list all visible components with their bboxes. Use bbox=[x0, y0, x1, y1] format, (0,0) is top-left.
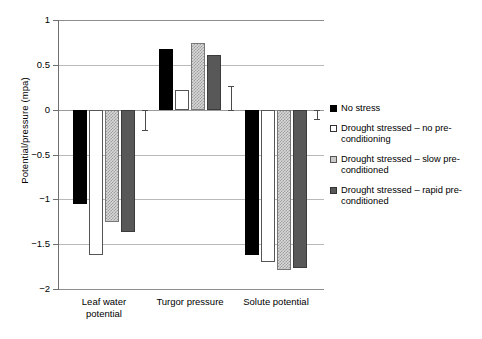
error-bar bbox=[145, 110, 146, 131]
y-axis-tick-label: −1.5 bbox=[31, 239, 50, 249]
bar bbox=[89, 110, 103, 255]
bar bbox=[277, 110, 291, 271]
legend-item-label: Drought stressed – no pre-conditioning bbox=[341, 123, 480, 145]
error-bar-cap bbox=[142, 110, 148, 111]
error-bar-cap bbox=[142, 130, 148, 131]
bar bbox=[105, 110, 119, 222]
y-axis-tick bbox=[53, 110, 59, 111]
bar-chart-figure: Potential/pressure (mpa) 10.50−0.5−1−1.5… bbox=[0, 0, 482, 339]
category-label-line: potential bbox=[59, 308, 149, 320]
y-axis-tick bbox=[53, 289, 59, 290]
error-bar bbox=[317, 110, 318, 119]
bar bbox=[293, 110, 307, 269]
legend-swatch-icon bbox=[330, 187, 337, 194]
category-label-line: Turgor pressure bbox=[145, 296, 235, 308]
bar bbox=[121, 110, 135, 233]
x-axis-category-label: Leaf waterpotential bbox=[59, 296, 149, 319]
y-axis-tick-label: 0.5 bbox=[37, 60, 50, 70]
bar bbox=[261, 110, 275, 262]
y-axis-tick-label: −2 bbox=[39, 284, 50, 294]
bar bbox=[159, 49, 173, 110]
legend-swatch-icon bbox=[330, 105, 337, 112]
y-axis-tick bbox=[53, 65, 59, 66]
error-bar-cap bbox=[314, 110, 320, 111]
legend-swatch-icon bbox=[330, 156, 337, 163]
y-axis-tick bbox=[53, 20, 59, 21]
legend-swatch-icon bbox=[330, 125, 337, 132]
category-label-line: Leaf water bbox=[59, 296, 149, 308]
y-axis-tick-label: −1 bbox=[39, 195, 50, 205]
legend-item[interactable]: Drought stressed – no pre-conditioning bbox=[330, 123, 480, 145]
bar bbox=[175, 90, 189, 110]
y-axis-tick bbox=[53, 244, 59, 245]
y-axis-tick-label: 1 bbox=[45, 15, 50, 25]
gridline bbox=[59, 289, 324, 290]
y-axis-tick-label: 0 bbox=[45, 105, 50, 115]
legend-item-label: No stress bbox=[341, 103, 380, 114]
plot-area: 10.50−0.5−1−1.5−2 bbox=[58, 20, 323, 289]
legend-item-label: Drought stressed – rapid pre-conditioned bbox=[341, 185, 480, 207]
legend-item[interactable]: Drought stressed – rapid pre-conditioned bbox=[330, 185, 480, 207]
legend-item[interactable]: Drought stressed – slow pre-conditioned bbox=[330, 154, 480, 176]
error-bar-cap bbox=[228, 110, 234, 111]
x-axis-category-label: Solute potential bbox=[231, 296, 321, 308]
gridline bbox=[59, 20, 324, 21]
x-axis-category-label: Turgor pressure bbox=[145, 296, 235, 308]
error-bar bbox=[231, 86, 232, 109]
bar bbox=[207, 55, 221, 110]
legend-item[interactable]: No stress bbox=[330, 103, 480, 114]
y-axis-tick-label: −0.5 bbox=[31, 150, 50, 160]
y-axis-tick bbox=[53, 155, 59, 156]
bar bbox=[73, 110, 87, 204]
chart-legend: No stressDrought stressed – no pre-condi… bbox=[330, 103, 480, 216]
category-label-line: Solute potential bbox=[231, 296, 321, 308]
y-axis-title: Potential/pressure (mpa) bbox=[19, 56, 30, 206]
error-bar-cap bbox=[228, 86, 234, 87]
legend-item-label: Drought stressed – slow pre-conditioned bbox=[341, 154, 480, 176]
error-bar-cap bbox=[314, 119, 320, 120]
bar bbox=[245, 110, 259, 255]
y-axis-tick bbox=[53, 199, 59, 200]
bar bbox=[191, 43, 205, 109]
